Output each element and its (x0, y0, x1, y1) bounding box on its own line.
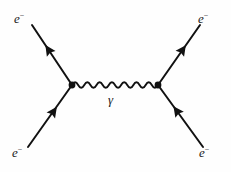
arrowhead-outgoing-upper-left (41, 42, 55, 57)
electron-charge-superscript: − (18, 145, 23, 154)
feynman-diagram-canvas: e− e− e− e− γ (0, 0, 231, 172)
label-electron-incoming-lower-left: e− (12, 146, 22, 159)
electron-charge-superscript: − (20, 11, 25, 20)
arrowhead-incoming-lower-right (169, 103, 184, 118)
electron-charge-superscript: − (205, 145, 210, 154)
electron-charge-superscript: − (204, 11, 209, 20)
virtual-photon-wavy-line (72, 82, 158, 88)
feynman-diagram-graphics (0, 0, 231, 172)
label-electron-incoming-lower-right: e− (199, 146, 209, 159)
fermion-line-segment (28, 85, 72, 147)
right-vertex-dot (155, 82, 162, 89)
fermion-line-segment (158, 85, 203, 147)
label-electron-outgoing-upper-right: e− (198, 12, 208, 25)
fermion-line-segment (158, 25, 200, 85)
arrowhead-outgoing-upper-right (176, 42, 191, 57)
label-virtual-photon: γ (108, 93, 113, 106)
fermion-line-segment (32, 25, 72, 85)
fermion-line-outgoing-upper-right (158, 25, 200, 85)
left-vertex-dot (69, 82, 76, 89)
fermion-line-incoming-lower-left (28, 85, 72, 147)
fermion-line-outgoing-upper-left (32, 25, 72, 85)
fermion-line-incoming-lower-right (158, 85, 203, 147)
label-electron-outgoing-upper-left: e− (14, 12, 24, 25)
